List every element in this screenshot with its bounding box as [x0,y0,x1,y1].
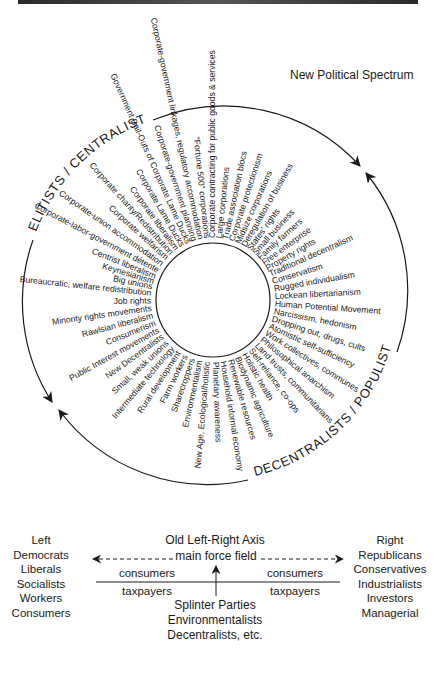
left-item: Democrats [10,548,72,563]
left-column: Left Democrats Liberals Socialists Worke… [10,533,72,621]
right-item: Republicans [350,548,430,563]
inner-circle [156,243,270,357]
splinter-line: Environmentalists [150,613,280,628]
right-item: Industrialists [350,577,430,592]
left-right-axis-panel: Left Democrats Liberals Socialists Worke… [0,530,436,674]
main-force-field-label: main force field [174,549,258,563]
left-taxpayers-label: taxpayers [112,585,182,597]
spoke-label: Planetary awareness [211,362,224,443]
left-item: Liberals [10,562,72,577]
right-item: Investors [350,591,430,606]
left-item: Socialists [10,577,72,592]
right-heading: Right [350,533,430,548]
left-item: Workers [10,591,72,606]
right-item: Managerial [350,606,430,621]
right-column: Right Republicans Conservatives Industri… [350,533,430,621]
splinter-line: Decentralists, etc. [150,628,280,643]
left-heading: Left [10,533,72,548]
right-taxpayers-label: taxpayers [260,585,330,597]
right-consumers-label: consumers [260,567,330,579]
diagram-title: New Political Spectrum [290,68,413,82]
right-item: Conservatives [350,562,430,577]
arc-right [366,173,408,352]
splinter-parties-block: Splinter Parties Environmentalists Decen… [150,598,280,643]
splinter-line: Splinter Parties [150,598,280,613]
left-consumers-label: consumers [112,567,182,579]
arc-left [22,240,52,402]
left-item: Consumers [10,606,72,621]
axis-title: Old Left-Right Axis [160,533,270,547]
